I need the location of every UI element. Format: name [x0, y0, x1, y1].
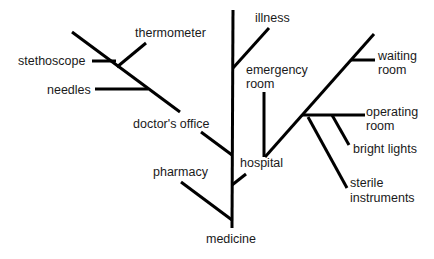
pharmacy-branch	[181, 182, 232, 220]
label-emergency-line2: room	[246, 77, 274, 92]
doctors-office-connector	[201, 132, 232, 155]
doctors-office-branch	[72, 32, 180, 112]
label-operating-line1: operating	[366, 105, 418, 120]
label-medicine: medicine	[206, 232, 256, 247]
label-operating-line2: room	[366, 119, 394, 134]
label-waiting-line1: waiting	[378, 49, 417, 64]
label-thermometer: thermometer	[135, 26, 206, 41]
label-needles: needles	[47, 83, 91, 98]
label-stethoscope: stethoscope	[18, 54, 85, 69]
concept-tree-diagram: thermometer stethoscope needles doctor's…	[0, 0, 434, 259]
label-emergency-line1: emergency	[246, 63, 308, 78]
hospital-connector	[232, 174, 246, 185]
label-pharmacy: pharmacy	[153, 165, 208, 180]
sterile-instruments-branch	[308, 117, 347, 188]
label-sterile-line2: instruments	[350, 191, 415, 206]
illness-branch	[233, 28, 269, 68]
thermometer-branch	[117, 43, 146, 67]
label-waiting-line2: room	[378, 63, 406, 78]
label-sterile-line1: sterile	[350, 176, 383, 191]
bright-lights-branch	[332, 115, 349, 145]
label-bright-lights: bright lights	[353, 142, 417, 157]
trunk-line	[232, 10, 233, 228]
label-doctors-office: doctor's office	[133, 117, 210, 132]
label-hospital: hospital	[240, 156, 283, 171]
label-illness: illness	[255, 11, 290, 26]
